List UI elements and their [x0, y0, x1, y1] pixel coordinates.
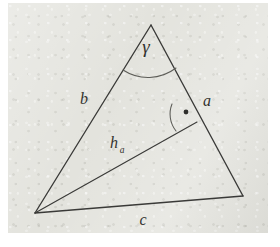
angle-arc-gamma	[123, 68, 176, 77]
altitude-label-subscript-a: a	[120, 145, 125, 155]
side-label-c: c	[139, 211, 146, 228]
side-label-a: a	[203, 92, 211, 109]
geometry-figure: γ a b c h a	[0, 0, 280, 247]
triangle-diagram: γ a b c h a	[0, 0, 280, 247]
right-angle-dot-icon	[184, 110, 189, 115]
triangle-side-a	[151, 25, 243, 196]
altitude-label-ha: h a	[110, 134, 125, 155]
angle-label-gamma: γ	[142, 36, 150, 57]
right-angle-arc	[170, 104, 176, 131]
side-label-b: b	[80, 90, 88, 107]
altitude-label-h: h	[110, 134, 118, 151]
triangle-side-b	[35, 25, 151, 213]
